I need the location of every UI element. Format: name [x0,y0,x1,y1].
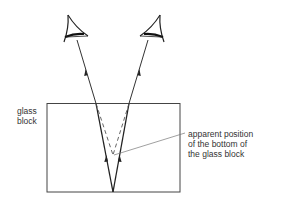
glass-block-label-line-2: block [17,116,37,126]
apparent-position-label-line-2: of the bottom of [188,139,253,149]
apparent-position-label-line-1: apparent position [188,129,253,139]
refraction-diagram [0,0,288,205]
leader-line [114,133,185,155]
ray-left-outside [77,40,96,104]
ray-right-inside [113,104,129,193]
glass-block-label-line-1: glass [17,106,37,116]
ray-right-outside [129,40,148,104]
arrow-icon-left-inner [104,155,108,162]
glass-block-label: glass block [17,106,37,126]
eye-icon-right [140,15,164,42]
apparent-position-label-line-3: the glass block [188,149,253,159]
eye-icon-left [64,15,88,42]
apparent-position-label: apparent position of the bottom of the g… [188,129,253,159]
glass-block [47,104,180,193]
ray-left-inside [96,104,113,193]
